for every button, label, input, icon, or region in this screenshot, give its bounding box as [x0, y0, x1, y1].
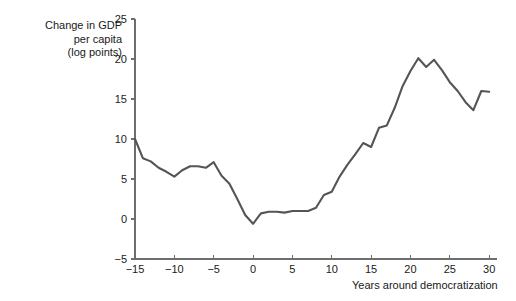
- x-tick-label: 5: [289, 263, 295, 275]
- y-axis-title-line-2: per capita: [14, 33, 122, 47]
- x-tick-label: 25: [444, 263, 456, 275]
- x-tick-label: 10: [326, 263, 338, 275]
- series-line: [135, 58, 489, 224]
- y-tick-label: 15: [115, 93, 127, 105]
- axes-group: [135, 19, 497, 259]
- ticks-group: [131, 19, 489, 259]
- y-tick-label: 0: [121, 213, 127, 225]
- y-axis-title-line-3: (log points): [14, 46, 122, 60]
- x-tick-label: 20: [404, 263, 416, 275]
- y-tick-label: 5: [121, 173, 127, 185]
- y-axis-title-line-1: Change in GDP: [14, 19, 122, 33]
- x-tick-label: −15: [126, 263, 145, 275]
- x-tick-label: 15: [365, 263, 377, 275]
- chart-figure: −50510152025−15−10−5051015202530 Change …: [0, 0, 516, 301]
- data-series-group: [135, 58, 489, 224]
- x-tick-label: 0: [250, 263, 256, 275]
- x-tick-label: −10: [165, 263, 184, 275]
- x-tick-label: −5: [207, 263, 220, 275]
- x-tick-label: 30: [483, 263, 495, 275]
- x-axis-title: Years around democratization: [352, 279, 498, 291]
- y-axis-title: Change in GDP per capita (log points): [14, 19, 122, 60]
- y-tick-label: 10: [115, 133, 127, 145]
- tick-labels-group: −50510152025−15−10−5051015202530: [114, 13, 495, 275]
